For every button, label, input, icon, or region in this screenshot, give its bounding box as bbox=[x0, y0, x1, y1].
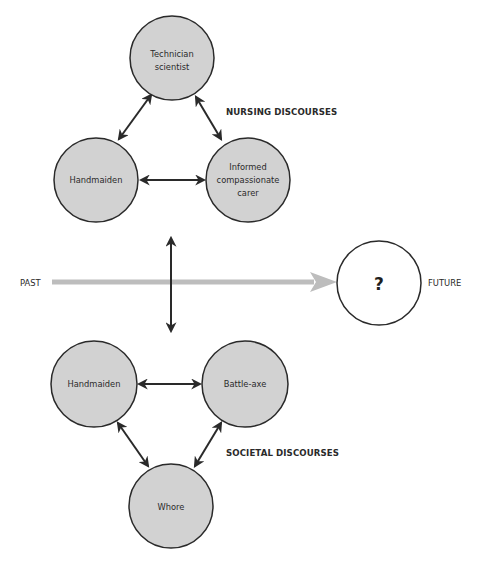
nursing-discourses-title: NURSING DISCOURSES bbox=[226, 107, 337, 117]
node-label: Handmaiden bbox=[68, 379, 121, 389]
node-informed-compassionate-carer: Informed compassionate carer bbox=[206, 138, 290, 222]
node-label: Whore bbox=[158, 502, 185, 512]
node-label: Battle-axe bbox=[224, 379, 267, 389]
future-node: ? bbox=[337, 241, 421, 325]
node-label: Informed bbox=[229, 162, 266, 172]
arrow-battleaxe-whore bbox=[195, 423, 221, 466]
node-handmaiden-societal: Handmaiden bbox=[51, 341, 137, 427]
arrow-technician-handmaiden bbox=[119, 95, 151, 139]
timeline-arrow bbox=[52, 272, 337, 292]
discourse-diagram: Technician scientist Handmaiden Informed… bbox=[0, 0, 487, 564]
node-label: Technician bbox=[149, 49, 193, 59]
node-battle-axe: Battle-axe bbox=[202, 341, 288, 427]
node-label: Handmaiden bbox=[70, 175, 123, 185]
node-label: compassionate bbox=[217, 175, 280, 185]
node-technician-scientist: Technician scientist bbox=[130, 16, 214, 100]
societal-discourses-title: SOCIETAL DISCOURSES bbox=[226, 448, 339, 458]
arrow-handmaiden-whore bbox=[118, 423, 148, 466]
past-label: PAST bbox=[20, 278, 42, 288]
question-mark: ? bbox=[374, 274, 384, 294]
node-handmaiden-nursing: Handmaiden bbox=[54, 138, 138, 222]
node-whore: Whore bbox=[129, 464, 213, 548]
future-label: FUTURE bbox=[428, 278, 461, 288]
node-label: scientist bbox=[155, 62, 190, 72]
node-label: carer bbox=[237, 188, 259, 198]
arrow-technician-carer bbox=[196, 97, 221, 139]
